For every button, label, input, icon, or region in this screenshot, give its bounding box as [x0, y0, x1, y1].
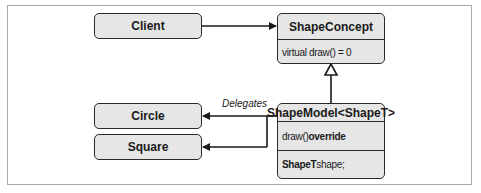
circle-label: Circle — [131, 109, 164, 123]
client-node: Client — [94, 13, 202, 39]
square-node: Square — [94, 134, 202, 160]
shapemodel-member-shape: ShapeT shape; — [278, 150, 384, 178]
shapemodel-title: ShapeModel<ShapeT> — [278, 104, 384, 122]
shape-field: shape; — [316, 159, 344, 170]
shapemodel-class: ShapeModel<ShapeT> draw() override Shape… — [277, 103, 385, 179]
circle-node: Circle — [94, 103, 202, 129]
override-keyword: override — [309, 131, 346, 142]
shapeconcept-class: ShapeConcept virtual draw() = 0 — [277, 13, 385, 64]
shape-type: ShapeT — [282, 159, 316, 170]
inheritance-triangle-icon — [325, 64, 337, 75]
square-label: Square — [128, 140, 169, 154]
shapeconcept-member: virtual draw() = 0 — [278, 40, 384, 64]
connectors — [0, 0, 481, 193]
shapeconcept-title: ShapeConcept — [278, 14, 384, 40]
draw-method: draw() — [282, 131, 309, 142]
client-label: Client — [131, 19, 164, 33]
shapemodel-member-draw: draw() override — [278, 122, 384, 150]
delegates-edge-label: Delegates — [222, 98, 267, 109]
